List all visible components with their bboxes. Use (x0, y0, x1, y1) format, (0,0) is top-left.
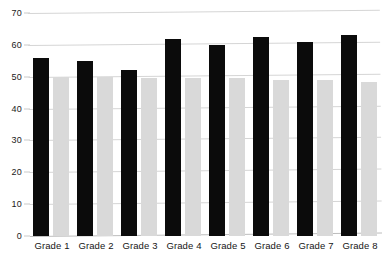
y-tick-label-60: 60 (12, 40, 22, 50)
bar-light (97, 77, 113, 236)
y-tick-label-70: 70 (12, 8, 22, 18)
bar-dark (33, 58, 49, 236)
x-axis-label: Grade 5 (206, 240, 250, 251)
y-tick-label-30: 30 (12, 135, 22, 145)
bar-light (317, 80, 333, 236)
bar-dark (77, 61, 93, 236)
bar-light (361, 82, 377, 237)
bar-dark (341, 35, 357, 236)
x-axis-label: Grade 8 (338, 240, 382, 251)
bar-dark (253, 37, 269, 236)
y-axis: 010203040506070 (0, 13, 30, 236)
y-tick-label-20: 20 (12, 167, 22, 177)
y-tick-label-0: 0 (17, 231, 22, 241)
y-tick-label-10: 10 (12, 199, 22, 209)
bar-group (338, 13, 382, 236)
bar-group (162, 13, 206, 236)
x-axis-label: Grade 4 (162, 240, 206, 251)
bar-group (118, 13, 162, 236)
plot-area (30, 13, 382, 236)
bar-dark (165, 39, 181, 237)
x-axis-labels: Grade 1Grade 2Grade 3Grade 4Grade 5Grade… (30, 240, 382, 262)
bar-light (273, 80, 289, 236)
bar-group (206, 13, 250, 236)
bar-light (53, 77, 69, 236)
bar-group (30, 13, 74, 236)
x-axis-label: Grade 2 (74, 240, 118, 251)
y-tick-label-50: 50 (12, 72, 22, 82)
bar-group (294, 13, 338, 236)
x-axis-label: Grade 6 (250, 240, 294, 251)
bar-light (229, 78, 245, 236)
bar-dark (209, 45, 225, 236)
x-axis-label: Grade 1 (30, 240, 74, 251)
bar-light (141, 78, 157, 236)
bar-dark (121, 70, 137, 236)
y-tick-label-40: 40 (12, 104, 22, 114)
x-axis-label: Grade 3 (118, 240, 162, 251)
bar-series-container (30, 13, 382, 236)
bar-dark (297, 42, 313, 236)
bar-light (185, 78, 201, 236)
bar-group (250, 13, 294, 236)
bar-group (74, 13, 118, 236)
bar-chart: 010203040506070 Grade 1Grade 2Grade 3Gra… (0, 0, 382, 268)
x-axis-label: Grade 7 (294, 240, 338, 251)
